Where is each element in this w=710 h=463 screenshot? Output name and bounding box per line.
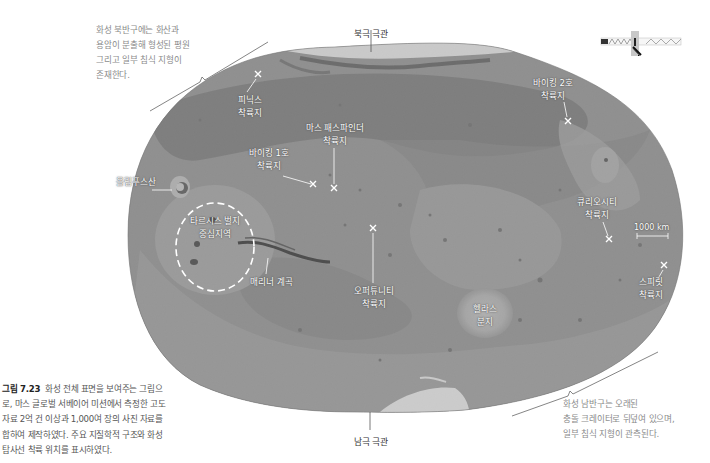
pathfinder-landing-label: 마스 패스파인더 착륙지: [298, 122, 372, 148]
caption-text: 로, 마스 글로벌 서베이어 미션에서 측정한 고도: [2, 397, 202, 412]
hellas-label-line: 헬라스: [465, 303, 505, 316]
tharsis-label-line: 중심지역: [180, 228, 250, 241]
northern-hemisphere-note: 화성 북반구에는 화산과 용암이 분출해 형성된 평원 그리고 일부 침식 지형…: [96, 23, 236, 83]
orientation-inset: [601, 31, 681, 56]
note-line: 일부 침식 지형이 관측된다.: [563, 427, 710, 442]
label-line: 큐리오시티: [570, 196, 624, 209]
hellas-label: 헬라스 분지: [465, 303, 505, 329]
note-line: 화성 남반구는 오래된: [563, 397, 710, 412]
caption-text: 합하여 제작하였다. 주요 지질학적 구조와 화성: [2, 428, 202, 443]
south-pole-label: 남극 극관: [340, 435, 402, 448]
note-line: 화성 북반구에는 화산과: [96, 23, 236, 38]
caption-text: 탐사선 착륙 위치를 표시하였다.: [2, 443, 202, 458]
note-line: 충돌 크레이터로 뒤덮여 있으며,: [563, 412, 710, 427]
caption-text: 화성 전체 표면을 보여주는 그림으: [45, 384, 163, 394]
label-line: 착륙지: [228, 107, 272, 120]
caption-text: 자료 2억 건 이상과 1,000여 장의 사진 자료를: [2, 412, 202, 427]
olympus-mons-label: 올림푸스산: [116, 176, 156, 189]
tharsis-label: 타르시스 벌지 중심지역: [180, 215, 250, 241]
figure-caption: 그림 7.23 화성 전체 표면을 보여주는 그림으 로, 마스 글로벌 서베이…: [2, 382, 202, 458]
viking2-landing-label: 바이킹 2호 착륙지: [528, 77, 578, 103]
label-line: 착륙지: [570, 209, 624, 222]
opportunity-landing-label: 오퍼튜니티 착륙지: [346, 285, 402, 311]
hellas-label-line: 분지: [465, 316, 505, 329]
label-line: 착륙지: [298, 135, 372, 148]
valles-marineris-label: 매리너 계곡: [250, 276, 293, 289]
viking1-landing-label: 바이킹 1호 착륙지: [244, 147, 294, 173]
label-line: 착륙지: [244, 160, 294, 173]
tharsis-label-line: 타르시스 벌지: [180, 215, 250, 228]
label-line: 피닉스: [228, 94, 272, 107]
label-line: 바이킹 1호: [244, 147, 294, 160]
southern-hemisphere-note: 화성 남반구는 오래된 충돌 크레이터로 뒤덮여 있으며, 일부 침식 지형이 …: [563, 397, 710, 442]
spirit-landing-label: 스피릿 착륙지: [630, 276, 672, 302]
label-line: 착륙지: [528, 90, 578, 103]
label-line: 마스 패스파인더: [298, 122, 372, 135]
north-pole-label: 북극 극관: [340, 27, 402, 40]
label-line: 오퍼튜니티: [346, 285, 402, 298]
caption-label: 그림 7.23: [2, 384, 40, 394]
note-line: 그리고 일부 침식 지형이: [96, 53, 236, 68]
label-line: 바이킹 2호: [528, 77, 578, 90]
label-line: 스피릿: [630, 276, 672, 289]
note-line: 존재한다.: [96, 68, 236, 83]
note-line: 용암이 분출해 형성된 평원: [96, 38, 236, 53]
phoenix-landing-label: 피닉스 착륙지: [228, 94, 272, 120]
label-line: 착륙지: [630, 289, 672, 302]
scale-bar-label: 1000 km: [634, 221, 669, 234]
label-line: 착륙지: [346, 298, 402, 311]
curiosity-landing-label: 큐리오시티 착륙지: [570, 196, 624, 222]
